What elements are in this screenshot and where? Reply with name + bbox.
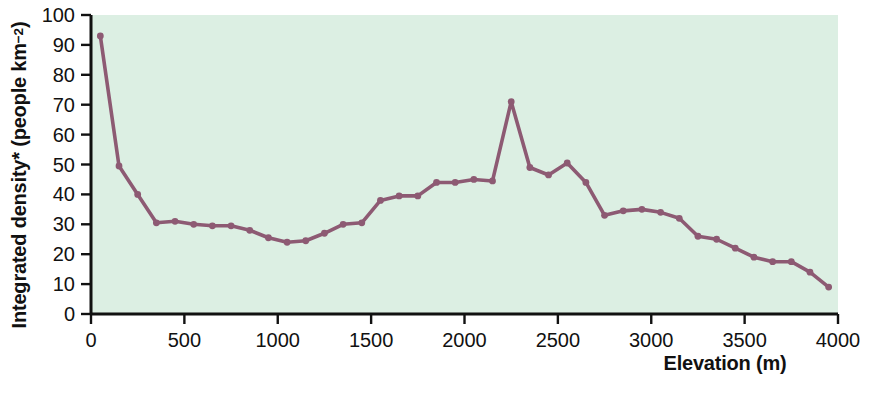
y-tick-label: 30 [53, 213, 75, 235]
data-point-marker [825, 284, 832, 291]
x-tick-label: 500 [168, 329, 201, 351]
data-point-marker [302, 237, 309, 244]
y-tick-label: 0 [64, 303, 75, 325]
data-point-marker [396, 192, 403, 199]
data-point-marker [153, 219, 160, 226]
y-tick-label: 20 [53, 243, 75, 265]
data-point-marker [769, 258, 776, 265]
line-chart-plot: 05001000150020002500300035004000 0102030… [0, 0, 882, 394]
y-tick-label: 10 [53, 273, 75, 295]
data-point-marker [695, 233, 702, 240]
data-point-marker [284, 239, 291, 246]
data-point-marker [470, 176, 477, 183]
data-point-marker [209, 222, 216, 229]
data-point-marker [134, 191, 141, 198]
data-point-marker [676, 215, 683, 222]
data-point-marker [713, 236, 720, 243]
data-point-marker [526, 164, 533, 171]
y-tick-label: 40 [53, 183, 75, 205]
y-tick-label: 50 [53, 154, 75, 176]
data-point-marker [414, 192, 421, 199]
data-point-marker [190, 221, 197, 228]
y-tick-label: 60 [53, 124, 75, 146]
x-tick-label: 1500 [349, 329, 394, 351]
x-tick-label: 0 [85, 329, 96, 351]
data-point-marker [751, 254, 758, 261]
chart-figure: Integrated density* (people km−2) Elevat… [0, 0, 882, 394]
data-point-marker [433, 179, 440, 186]
data-point-marker [228, 222, 235, 229]
y-tick-label: 90 [53, 34, 75, 56]
data-point-marker [172, 218, 179, 225]
x-tick-label: 3500 [722, 329, 767, 351]
x-axis-ticks: 05001000150020002500300035004000 [85, 314, 860, 351]
data-point-marker [807, 269, 814, 276]
data-point-marker [564, 160, 571, 167]
data-point-marker [732, 245, 739, 252]
plot-background [91, 15, 838, 314]
data-point-marker [601, 212, 608, 219]
data-point-marker [265, 234, 272, 241]
data-point-marker [489, 178, 496, 185]
data-point-marker [639, 206, 646, 213]
data-point-marker [116, 163, 123, 170]
y-axis-ticks: 0102030405060708090100 [42, 4, 91, 325]
data-point-marker [582, 179, 589, 186]
data-point-marker [657, 209, 664, 216]
y-tick-label: 80 [53, 64, 75, 86]
x-tick-label: 4000 [816, 329, 861, 351]
y-tick-label: 70 [53, 94, 75, 116]
y-tick-label: 100 [42, 4, 75, 26]
data-point-marker [97, 33, 104, 40]
x-tick-label: 1000 [256, 329, 301, 351]
data-point-marker [545, 172, 552, 179]
data-point-marker [377, 197, 384, 204]
plot-background-group [91, 15, 838, 314]
x-tick-label: 3000 [629, 329, 674, 351]
x-tick-label: 2000 [442, 329, 487, 351]
data-point-marker [358, 219, 365, 226]
data-point-marker [321, 230, 328, 237]
data-point-marker [452, 179, 459, 186]
data-point-marker [508, 98, 515, 105]
data-point-marker [246, 227, 253, 234]
x-tick-label: 2500 [536, 329, 581, 351]
data-point-marker [788, 258, 795, 265]
data-point-marker [620, 207, 627, 214]
data-point-marker [340, 221, 347, 228]
